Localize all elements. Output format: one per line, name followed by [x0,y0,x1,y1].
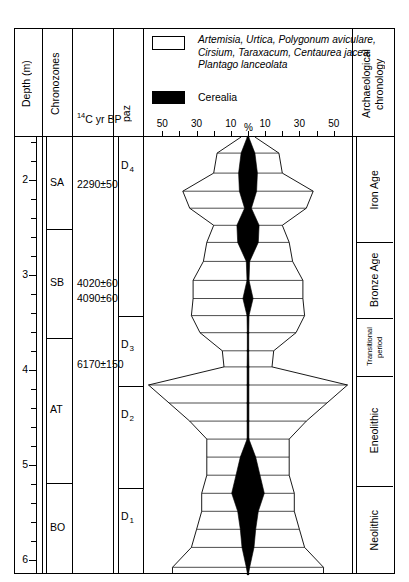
sample-point [247,350,250,353]
sample-point [247,260,250,263]
sample-point [247,172,250,175]
sample-point [247,224,250,227]
sample-point [247,314,250,317]
sample-point [247,402,250,405]
sample-point [247,566,250,569]
sample-point [247,279,250,282]
sample-point [247,241,250,244]
taxa-curve-left [149,137,242,574]
sample-point [247,190,250,193]
sample-point [247,438,250,441]
sample-point [247,546,250,549]
sample-point [247,492,250,495]
sample-point [247,474,250,477]
sample-point [247,366,250,369]
cerealia-curve [232,137,265,574]
taxa-curve-right [255,137,348,574]
sample-point [247,207,250,210]
sample-point [247,152,250,155]
sample-point [247,456,250,459]
sample-point [247,420,250,423]
sample-point [247,384,250,387]
sample-point [247,331,250,334]
sample-point [247,510,250,513]
pollen-diagram-figure: Depth (m) Chronozones 14C yr BP paz Arch… [0,0,409,582]
sample-point [247,136,250,139]
pollen-curves [0,0,409,582]
sample-point [247,528,250,531]
sample-point [247,297,250,300]
sample-point [247,573,250,576]
